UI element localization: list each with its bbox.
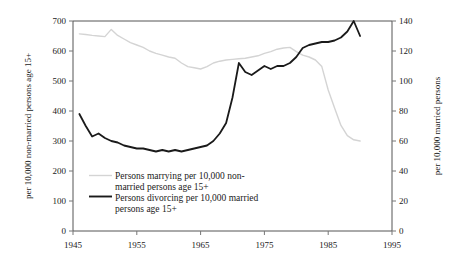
x-tick-label: 1975 bbox=[255, 240, 274, 250]
left-tick-label: 200 bbox=[53, 166, 67, 176]
left-tick-label: 400 bbox=[53, 106, 67, 116]
right-tick-label: 140 bbox=[399, 16, 413, 26]
legend-label-divorcing-line1: Persons divorcing per 10,000 married bbox=[115, 193, 259, 203]
left-tick-label: 600 bbox=[53, 46, 67, 56]
right-tick-label: 120 bbox=[399, 46, 413, 56]
left-tick-label: 700 bbox=[53, 16, 67, 26]
left-tick-label: 500 bbox=[53, 76, 67, 86]
left-tick-label: 300 bbox=[53, 136, 67, 146]
x-tick-label: 1995 bbox=[383, 240, 402, 250]
right-tick-label: 40 bbox=[399, 166, 409, 176]
x-tick-label: 1985 bbox=[319, 240, 338, 250]
right-tick-label: 100 bbox=[399, 76, 413, 86]
chart-background bbox=[0, 0, 453, 273]
left-tick-label: 100 bbox=[53, 196, 67, 206]
right-tick-label: 20 bbox=[399, 196, 409, 206]
right-axis-title: per 10,000 married persons bbox=[432, 76, 442, 175]
right-tick-label: 60 bbox=[399, 136, 409, 146]
x-tick-label: 1955 bbox=[128, 240, 147, 250]
left-tick-label: 0 bbox=[62, 226, 67, 236]
chart-container: 0100200300400500600700 02040608010012014… bbox=[0, 0, 453, 273]
legend-label-marrying-line2: married persons age 15+ bbox=[115, 182, 209, 192]
x-tick-label: 1945 bbox=[64, 240, 83, 250]
legend-label-marrying-line1: Persons marrying per 10,000 non- bbox=[115, 171, 245, 181]
x-tick-label: 1965 bbox=[192, 240, 211, 250]
legend-label-divorcing-line3: persons age 15+ bbox=[115, 204, 177, 214]
right-tick-label: 0 bbox=[399, 226, 404, 236]
marriage-divorce-line-chart: 0100200300400500600700 02040608010012014… bbox=[0, 0, 453, 273]
right-tick-label: 80 bbox=[399, 106, 409, 116]
left-axis-title: per 10,000 non-married persons age 15+ bbox=[23, 53, 33, 199]
